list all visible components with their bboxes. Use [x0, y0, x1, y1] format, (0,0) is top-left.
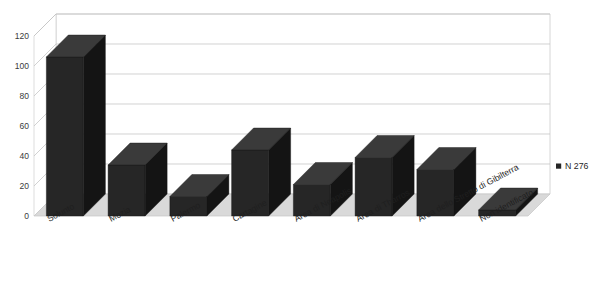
y-tick-20: 20: [20, 181, 30, 191]
y-tick-0: 0: [24, 211, 29, 221]
legend-swatch-n276: [556, 164, 561, 169]
y-tick-80: 80: [20, 91, 30, 101]
y-tick-40: 40: [20, 151, 30, 161]
y-tick-100: 100: [15, 61, 29, 71]
y-tick-120: 120: [15, 31, 29, 41]
y-axis-tick-labels: 020406080100120: [15, 31, 29, 221]
bar-1: [46, 35, 105, 216]
chart-canvas: 020406080100120 SoluntoMoziaPalermoCarta…: [0, 0, 606, 301]
legend-label-n276: N 276: [565, 161, 589, 171]
bar-chart: 020406080100120 SoluntoMoziaPalermoCarta…: [0, 0, 606, 301]
chart-legend: N 276: [556, 161, 589, 171]
y-tick-60: 60: [20, 121, 30, 131]
